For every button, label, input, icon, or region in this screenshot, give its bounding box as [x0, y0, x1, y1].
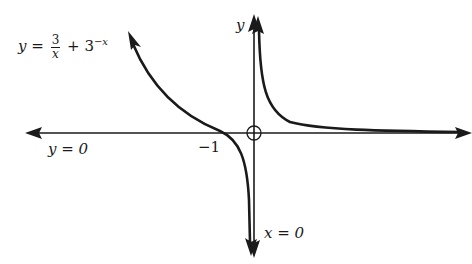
equation-label: y = 3 x + 3−x [18, 34, 108, 60]
curve-left-branch [128, 31, 257, 256]
equation-lhs: y [18, 37, 26, 55]
fraction-numerator: 3 [51, 34, 61, 48]
curve-right-branch [252, 16, 462, 132]
equation-fraction: 3 x [51, 34, 61, 60]
equation-equals: = [31, 37, 44, 55]
equation-plus-term: + 3 [67, 37, 94, 55]
graph-canvas: y = 3 x + 3−x y x = 0 y = 0 −1 [0, 0, 472, 264]
equation-exponent: −x [94, 36, 108, 47]
y-axis-label: y [236, 18, 244, 33]
vertical-asymptote-label: x = 0 [264, 226, 304, 241]
horizontal-asymptote-label: y = 0 [48, 142, 88, 157]
x-intercept-label: −1 [198, 140, 220, 155]
fraction-denominator: x [51, 48, 61, 61]
